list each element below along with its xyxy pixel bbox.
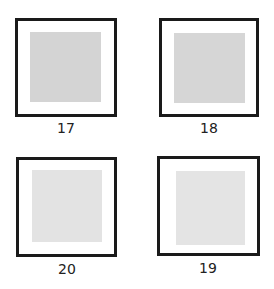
- gray-swatch: [32, 170, 102, 242]
- gray-swatch: [30, 32, 101, 102]
- panel-number-label: 17: [36, 120, 96, 136]
- panel-number-label: 19: [178, 260, 238, 276]
- panel-number-label: 20: [37, 261, 97, 277]
- gray-swatch: [174, 33, 245, 103]
- panel-number-label: 18: [179, 120, 239, 136]
- gray-swatch: [176, 171, 245, 245]
